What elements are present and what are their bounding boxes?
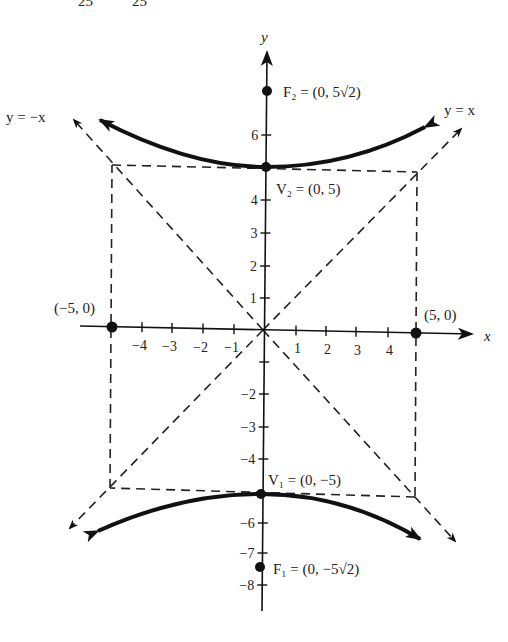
hyperbola-diagram: 25 25 y x −4−3−2−11234 64321−2−3−4−6−7−8 — [0, 0, 508, 642]
y-axis — [262, 52, 267, 611]
y-tick-label: −8 — [239, 578, 254, 593]
point-left-label: (−5, 0) — [54, 300, 95, 317]
x-tick-label: −1 — [224, 340, 239, 355]
focus-bottom-point — [255, 562, 265, 572]
y-tick-label: −6 — [240, 516, 255, 531]
y-tick-label: −4 — [240, 452, 255, 467]
x-axis-label: x — [483, 328, 491, 344]
focus-top-label: F₂ = (0, 5√2) — [283, 84, 361, 101]
x-tick-label: 4 — [386, 343, 393, 358]
header-fragment-left: 25 — [78, 0, 93, 9]
y-tick-label: 2 — [250, 259, 257, 274]
vertex-top-label: V₂ = (0, 5) — [276, 181, 341, 198]
x-tick-label: −4 — [132, 338, 147, 353]
co-vertex-left-point — [107, 322, 118, 333]
x-tick-label: 2 — [324, 342, 331, 357]
focus-bottom-label: F₁ = (0, −5√2) — [273, 561, 359, 578]
y-axis-label: y — [259, 29, 268, 45]
vertex-top-point — [261, 162, 271, 172]
y-tick-label: 1 — [250, 291, 257, 306]
vertex-bottom-point — [256, 489, 266, 499]
y-tick-label: −3 — [241, 420, 256, 435]
header-fragment-right: 25 — [132, 0, 147, 9]
y-tick-label: 4 — [251, 193, 258, 208]
y-tick-label: −2 — [241, 387, 256, 402]
asymptote-pos-label: y = x — [444, 102, 475, 118]
vertex-bottom-label: V₁ = (0, −5) — [268, 472, 341, 489]
focus-top-point — [262, 86, 272, 96]
asymptote-neg-label: y = −x — [6, 109, 46, 125]
y-tick-label: −7 — [240, 546, 255, 561]
y-tick-label: 3 — [250, 226, 257, 241]
co-vertex-right-point — [411, 328, 422, 339]
x-tick-label: −3 — [162, 339, 177, 354]
hyperbola-upper-branch — [100, 120, 425, 167]
x-tick-label: 1 — [294, 341, 301, 356]
hyperbola-lower-branch — [98, 494, 420, 539]
x-tick-label: −2 — [193, 340, 208, 355]
y-tick-label: 6 — [251, 128, 258, 143]
point-right-label: (5, 0) — [424, 307, 457, 324]
x-tick-label: 3 — [354, 343, 361, 358]
